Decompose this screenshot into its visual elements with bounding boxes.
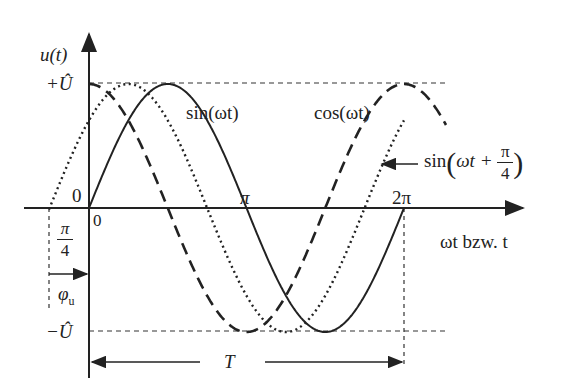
- minus-amplitude-label: −Û: [46, 322, 73, 341]
- sin-series-label: sin(ωt): [186, 103, 239, 122]
- two-pi-tick-label: 2π: [392, 188, 411, 207]
- plot-canvas: [0, 0, 562, 392]
- zero-left-label: 0: [72, 186, 82, 205]
- origin-label: 0: [93, 212, 102, 229]
- phase-symbol-label: φu: [58, 284, 75, 307]
- plus-amplitude-label: +Û: [46, 74, 73, 93]
- cos-series-label: cos(ωt): [314, 103, 370, 122]
- y-axis-label: u(t): [40, 45, 67, 64]
- pi-tick-label: π: [240, 188, 250, 207]
- x-axis-label: ωt bzw. t: [440, 232, 508, 251]
- shifted-series-label: sin(ωt + π4): [424, 143, 523, 182]
- period-label: T: [224, 352, 235, 371]
- phase-fraction-label: π4: [57, 220, 73, 259]
